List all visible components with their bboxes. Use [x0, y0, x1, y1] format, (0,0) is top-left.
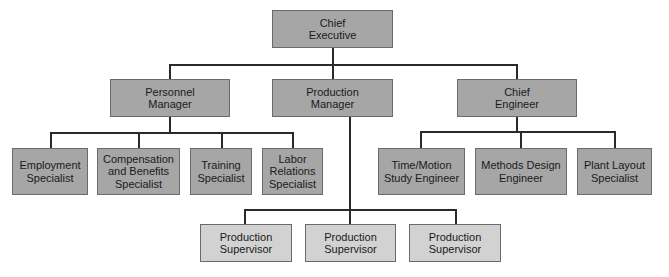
node-label: Chief Engineer: [495, 86, 539, 111]
node-labor-relations-specialist: Labor Relations Specialist: [262, 148, 323, 195]
connector-to-employment: [50, 132, 52, 148]
node-label: Chief Executive: [309, 17, 357, 42]
node-compensation-benefits-specialist: Compensation and Benefits Specialist: [97, 148, 180, 195]
node-label: Production Supervisor: [220, 231, 273, 256]
connector-to-labor: [292, 132, 294, 148]
node-label: Training Specialist: [197, 159, 244, 184]
connector-production-down: [349, 117, 351, 209]
connector-to-methods: [520, 131, 522, 148]
node-chief-engineer: Chief Engineer: [457, 79, 577, 117]
node-label: Production Supervisor: [324, 231, 377, 256]
connector-personnel-horizontal: [50, 132, 293, 134]
connector-engineer-down: [516, 117, 518, 131]
node-training-specialist: Training Specialist: [190, 148, 252, 195]
node-label: Production Supervisor: [429, 231, 482, 256]
node-production-manager: Production Manager: [272, 79, 393, 117]
node-label: Compensation and Benefits Specialist: [103, 153, 174, 191]
node-employment-specialist: Employment Specialist: [12, 148, 88, 195]
node-label: Personnel Manager: [145, 86, 195, 111]
node-production-supervisor-3: Production Supervisor: [409, 224, 501, 262]
connector-to-supervisor-3: [455, 209, 457, 224]
connector-personnel-down: [169, 117, 171, 132]
node-methods-design-engineer: Methods Design Engineer: [475, 148, 567, 195]
node-plant-layout-specialist: Plant Layout Specialist: [577, 148, 652, 195]
node-label: Production Manager: [306, 86, 359, 111]
node-label: Time/Motion Study Engineer: [384, 159, 459, 184]
connector-to-engineer: [516, 64, 518, 79]
node-label: Methods Design Engineer: [481, 159, 561, 184]
node-production-supervisor-1: Production Supervisor: [200, 224, 292, 262]
connector-to-plantlayout: [614, 131, 616, 148]
node-label: Labor Relations Specialist: [269, 153, 316, 191]
connector-to-timemotion: [420, 131, 422, 148]
node-label: Employment Specialist: [19, 159, 80, 184]
connector-to-supervisor-1: [244, 209, 246, 224]
connector-engineer-horizontal: [420, 131, 616, 133]
node-chief-executive: Chief Executive: [272, 10, 393, 48]
node-personnel-manager: Personnel Manager: [110, 79, 230, 117]
connector-top-horizontal: [169, 64, 517, 66]
connector-to-training: [221, 132, 223, 148]
connector-to-compensation: [138, 132, 140, 148]
node-timemotion-study-engineer: Time/Motion Study Engineer: [378, 148, 465, 195]
connector-ceo-down: [332, 48, 334, 64]
connector-to-supervisor-2: [349, 209, 351, 224]
connector-to-production: [332, 64, 334, 79]
node-label: Plant Layout Specialist: [584, 159, 645, 184]
connector-to-personnel: [169, 64, 171, 79]
node-production-supervisor-2: Production Supervisor: [305, 224, 396, 262]
